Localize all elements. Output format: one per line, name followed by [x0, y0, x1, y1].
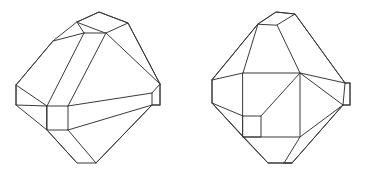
figure-canvas — [0, 0, 370, 174]
canvas-background — [0, 0, 370, 174]
